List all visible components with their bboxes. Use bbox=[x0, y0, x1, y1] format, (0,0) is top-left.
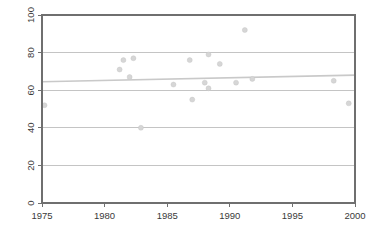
data-point bbox=[250, 76, 255, 81]
data-point bbox=[131, 56, 136, 61]
data-point bbox=[171, 82, 176, 87]
scatter-plot: 197519801985199019952000 020406080100 bbox=[0, 0, 373, 230]
x-tick-label: 2000 bbox=[344, 210, 365, 221]
y-tick-label: 100 bbox=[25, 7, 36, 23]
y-axis-ticks bbox=[38, 15, 42, 203]
x-axis-tick-labels: 197519801985199019952000 bbox=[31, 210, 365, 221]
data-point bbox=[138, 125, 143, 130]
y-axis-tick-labels: 020406080100 bbox=[25, 7, 36, 206]
data-point bbox=[121, 58, 126, 63]
data-point bbox=[190, 97, 195, 102]
data-point bbox=[234, 80, 239, 85]
data-point bbox=[217, 61, 222, 66]
x-tick-label: 1995 bbox=[282, 210, 303, 221]
data-point bbox=[206, 52, 211, 57]
data-point bbox=[206, 86, 211, 91]
y-tick-label: 80 bbox=[25, 47, 36, 58]
data-point bbox=[127, 75, 132, 80]
plot-background bbox=[42, 15, 355, 203]
data-point bbox=[117, 67, 122, 72]
data-point bbox=[202, 80, 207, 85]
data-point bbox=[42, 103, 47, 108]
y-tick-label: 0 bbox=[25, 200, 36, 205]
y-tick-label: 20 bbox=[25, 160, 36, 171]
y-tick-label: 60 bbox=[25, 85, 36, 96]
x-axis-ticks bbox=[42, 203, 355, 207]
x-tick-label: 1980 bbox=[94, 210, 115, 221]
data-point bbox=[187, 58, 192, 63]
x-tick-label: 1990 bbox=[219, 210, 240, 221]
chart-figure: 197519801985199019952000 020406080100 bbox=[0, 0, 373, 230]
y-tick-label: 40 bbox=[25, 123, 36, 134]
x-tick-label: 1985 bbox=[157, 210, 178, 221]
data-point bbox=[242, 28, 247, 33]
x-tick-label: 1975 bbox=[31, 210, 52, 221]
data-point bbox=[346, 101, 351, 106]
data-point bbox=[331, 78, 336, 83]
